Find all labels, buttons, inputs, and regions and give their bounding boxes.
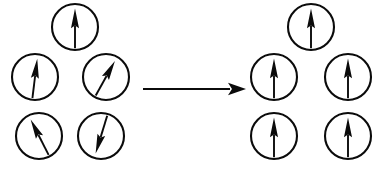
figure-canvas xyxy=(0,0,386,174)
spin-left-middle-left xyxy=(12,54,58,100)
spin-left-bottom-left xyxy=(16,113,62,159)
spin-left-top xyxy=(52,4,98,50)
aligned-spin-cluster xyxy=(251,4,371,159)
spin-right-middle-right xyxy=(325,54,371,100)
disordered-spin-cluster xyxy=(12,4,129,159)
spin-left-bottom-right xyxy=(78,113,124,159)
spin-right-top xyxy=(288,4,334,50)
spin-right-bottom-left xyxy=(251,113,297,159)
rightwards-arrow xyxy=(143,83,246,95)
spin-transition-figure xyxy=(0,0,386,174)
spin-right-middle-left xyxy=(251,54,297,100)
spin-right-bottom-right xyxy=(325,113,371,159)
spin-left-middle-right xyxy=(83,54,129,100)
rightwards-arrow-head xyxy=(228,83,246,95)
